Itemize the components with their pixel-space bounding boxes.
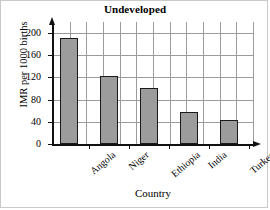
y-tick-mark <box>48 144 53 145</box>
bar <box>60 38 78 144</box>
y-axis-line <box>52 24 54 145</box>
bar <box>140 88 158 144</box>
x-tick-mark <box>89 145 90 149</box>
y-tick-label: 200 <box>26 28 41 38</box>
x-axis-line <box>52 144 254 146</box>
y-tick-mark <box>48 100 53 101</box>
bar <box>180 112 198 144</box>
x-category-label: Turkey <box>248 149 270 176</box>
x-tick-mark <box>129 145 130 149</box>
y-axis-arrow-icon <box>49 17 55 25</box>
y-tick-label: 0 <box>36 139 41 149</box>
y-tick-label: 160 <box>26 50 41 60</box>
y-axis-title: IMR per 1000 births <box>18 3 29 127</box>
bars-layer <box>53 22 253 144</box>
x-tick-mark <box>249 145 250 149</box>
y-tick-mark <box>48 33 53 34</box>
x-axis-arrow-icon <box>253 141 261 147</box>
x-tick-mark <box>209 145 210 149</box>
y-tick-mark <box>48 55 53 56</box>
y-tick-mark <box>48 122 53 123</box>
gridline-vertical <box>253 22 254 144</box>
x-axis-title: Country <box>53 187 253 199</box>
x-category-label: India <box>206 149 229 171</box>
x-category-label: Ethiopia <box>169 149 202 179</box>
x-tick-mark <box>169 145 170 149</box>
plot-area <box>53 22 253 144</box>
chart-title: Undeveloped <box>1 3 269 15</box>
y-tick-mark <box>48 77 53 78</box>
y-tick-label: 80 <box>31 95 41 105</box>
y-tick-label: 120 <box>26 72 41 82</box>
chart-figure: Undeveloped IMR per 1000 births 04080120… <box>0 0 268 208</box>
bar <box>220 120 238 144</box>
y-tick-label: 40 <box>31 117 41 127</box>
x-category-label: Niger <box>126 149 151 172</box>
bar <box>100 76 118 144</box>
x-category-label: Angola <box>88 149 118 176</box>
